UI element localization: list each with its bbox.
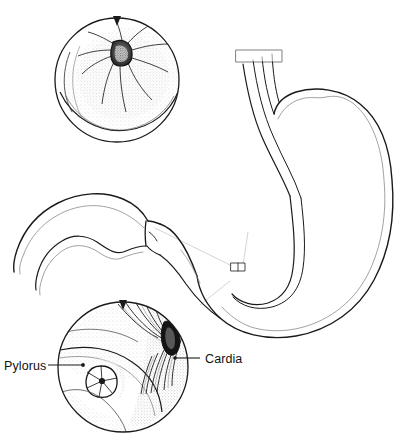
label-cardia-text: Cardia xyxy=(205,352,242,366)
lower-inset xyxy=(58,300,188,433)
esophagus-fade-mask xyxy=(236,50,282,62)
pyloric-opening xyxy=(111,40,132,66)
inset-marker-rect xyxy=(231,263,245,271)
stomach-anatomy-figure: Pylorus Cardia xyxy=(0,0,405,441)
label-pylorus-text: Pylorus xyxy=(4,359,46,373)
label-cardia-leader-dot xyxy=(173,356,177,360)
label-pylorus-leader-dot xyxy=(81,363,85,367)
illustration-canvas: Pylorus Cardia xyxy=(0,0,405,441)
